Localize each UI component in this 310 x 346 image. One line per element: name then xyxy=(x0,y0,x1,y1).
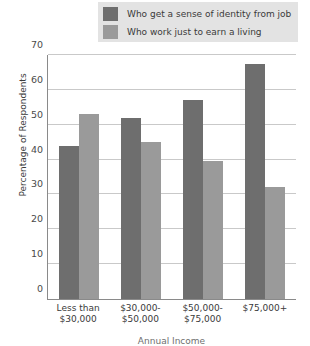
bar xyxy=(203,161,223,299)
x-axis-tick-label-line: $30,000 xyxy=(47,314,109,325)
x-axis-tick-label-line: $50,000- xyxy=(172,303,234,314)
bar-group xyxy=(110,55,172,299)
x-axis-tick-label: $30,000-$50,000 xyxy=(109,303,171,325)
y-axis-title: Percentage of Respondents xyxy=(18,50,28,220)
y-axis-tick-label: 50 xyxy=(31,108,43,119)
bar-series-container xyxy=(48,55,296,299)
x-axis-tick-labels: Less than$30,000$30,000-$50,000$50,000-$… xyxy=(47,303,296,325)
x-axis-title: Annual Income xyxy=(47,336,296,346)
legend-label-living: Who work just to earn a living xyxy=(127,27,262,37)
y-axis-tick-label: 60 xyxy=(31,73,43,84)
chart-legend: Who get a sense of identity from job Who… xyxy=(98,2,298,42)
bar-group xyxy=(234,55,296,299)
legend-label-identity: Who get a sense of identity from job xyxy=(127,9,291,19)
bar xyxy=(245,64,265,299)
bar-group xyxy=(172,55,234,299)
x-axis-tick-label-line: $75,000 xyxy=(172,314,234,325)
bar-group xyxy=(48,55,110,299)
legend-item-living: Who work just to earn a living xyxy=(103,23,294,40)
legend-swatch-living xyxy=(103,25,118,39)
y-axis-tick-label: 30 xyxy=(31,178,43,189)
bar xyxy=(265,187,285,299)
x-axis-tick-label: $50,000-$75,000 xyxy=(172,303,234,325)
y-axis-tick-label: 40 xyxy=(31,143,43,154)
x-axis-tick-label-line: $75,000+ xyxy=(234,303,296,314)
x-axis-tick-label-line: $30,000- xyxy=(109,303,171,314)
y-axis-tick-label: 0 xyxy=(37,283,43,294)
x-axis-tick-label-line: $50,000 xyxy=(109,314,171,325)
x-axis-tick-label-line: Less than xyxy=(47,303,109,314)
plot-area: 010203040506070 xyxy=(47,55,296,300)
legend-swatch-identity xyxy=(103,7,118,21)
bar xyxy=(79,114,99,299)
bar xyxy=(141,142,161,299)
y-axis-tick-label: 70 xyxy=(31,39,43,50)
x-axis-tick-label: $75,000+ xyxy=(234,303,296,325)
bar xyxy=(121,118,141,299)
bar xyxy=(59,146,79,299)
bar xyxy=(183,100,203,299)
x-axis-tick-label: Less than$30,000 xyxy=(47,303,109,325)
y-axis-tick-label: 10 xyxy=(31,248,43,259)
y-axis-tick-label: 20 xyxy=(31,213,43,224)
legend-item-identity: Who get a sense of identity from job xyxy=(103,5,294,22)
